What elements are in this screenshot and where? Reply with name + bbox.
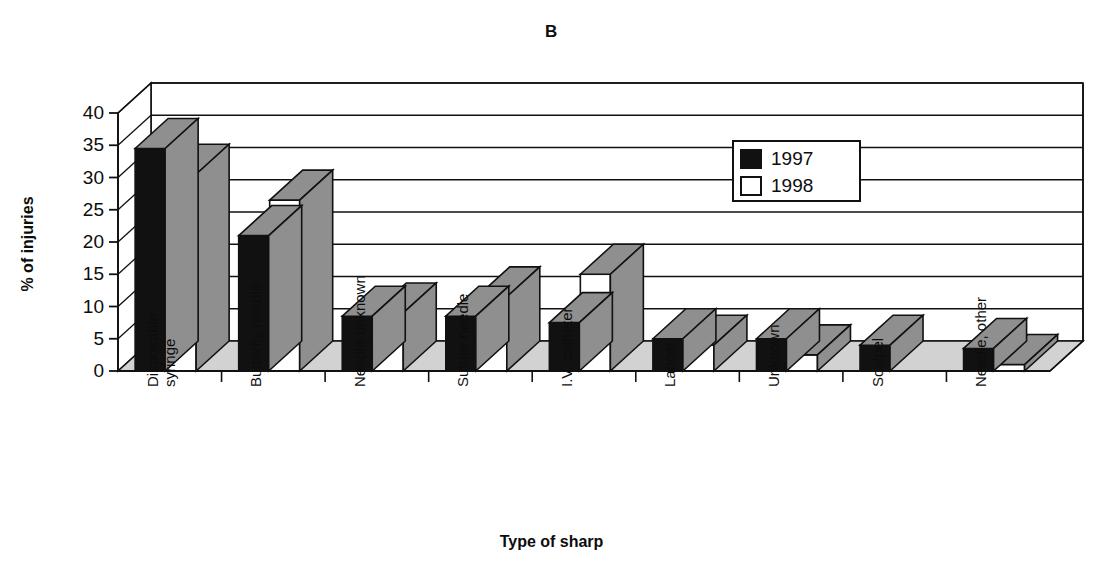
- x-category-label-line: I.V. catheter: [558, 308, 575, 388]
- legend-label-1998: 1998: [771, 176, 813, 195]
- x-category-label: Disposablesyringe: [144, 313, 178, 387]
- legend-label-1997: 1997: [771, 149, 813, 168]
- x-category-label-line: Needle, other: [972, 297, 989, 387]
- x-category-label-line: syringe: [161, 313, 178, 387]
- x-category-label: Unknown: [765, 324, 782, 387]
- legend-item-1997: 1997: [740, 145, 853, 172]
- y-tick-label: 40: [62, 103, 104, 122]
- legend-swatch-1997: [740, 149, 762, 169]
- y-tick-label: 5: [62, 329, 104, 348]
- x-category-label: Scalpel: [869, 338, 886, 387]
- x-category-label: Needle, other: [972, 297, 989, 387]
- y-tick-label: 10: [62, 297, 104, 316]
- y-tick-label: 0: [62, 361, 104, 380]
- y-tick-label: 30: [62, 168, 104, 187]
- legend-swatch-1998: [740, 176, 762, 196]
- x-category-label: Suture needle: [454, 294, 471, 387]
- legend-item-1998: 1998: [740, 172, 853, 199]
- legend: 1997 1998: [732, 140, 861, 202]
- y-tick-label: 35: [62, 135, 104, 154]
- x-category-label-line: Suture needle: [454, 294, 471, 387]
- y-tick-label: 15: [62, 264, 104, 283]
- axis-ticks: [109, 113, 118, 371]
- x-category-label: Butterfly needle: [247, 283, 264, 387]
- x-category-label: Lancet: [661, 342, 678, 387]
- x-category-label-line: Needle unknown: [351, 275, 368, 387]
- x-category-label-line: Unknown: [765, 324, 782, 387]
- plot-area: 0510152025303540 DisposablesyringeButter…: [0, 0, 1103, 581]
- x-category-label-line: Disposable: [144, 313, 161, 387]
- y-tick-label: 25: [62, 200, 104, 219]
- x-category-label-line: Scalpel: [869, 338, 886, 387]
- x-category-label: Needle unknown: [351, 275, 368, 387]
- x-category-label-line: Lancet: [661, 342, 678, 387]
- y-tick-label: 20: [62, 232, 104, 251]
- figure-panel-b: B % of injuries Type of sharp 0510152025…: [0, 0, 1103, 581]
- x-category-label: I.V. catheter: [558, 308, 575, 388]
- x-category-label-line: Butterfly needle: [247, 283, 264, 387]
- chart-svg: [0, 0, 1103, 581]
